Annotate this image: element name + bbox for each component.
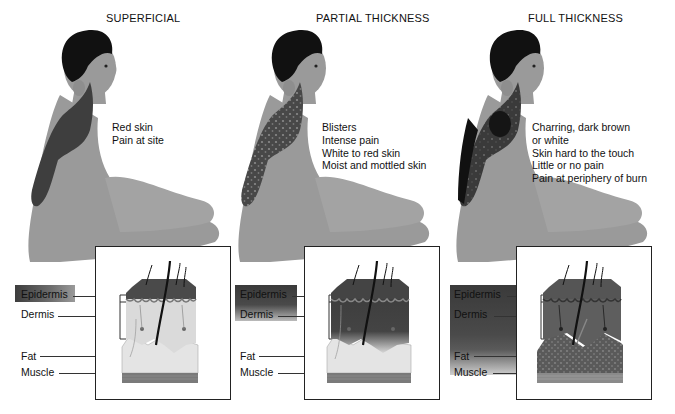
skin-cross-section-inset [516, 246, 652, 400]
description-line: or white [532, 134, 647, 147]
description-line: Red skin [112, 121, 164, 134]
description-line: Pain at site [112, 134, 164, 147]
description-line: Blisters [322, 121, 426, 134]
description-line: Little or no pain [532, 159, 647, 172]
label-dermis: Dermis [21, 308, 54, 320]
label-fat: Fat [454, 350, 469, 362]
panel-description: Blisters Intense pain White to red skin … [322, 121, 426, 172]
label-epidermis: Epidermis [454, 288, 501, 300]
description-line: Moist and mottled skin [322, 159, 426, 172]
label-muscle: Muscle [454, 366, 487, 378]
panel-superficial: SUPERFICIAL Red skin Pain at site Epider… [0, 0, 225, 414]
label-fat: Fat [21, 350, 36, 362]
panel-partial-thickness: PARTIAL THICKNESS Blisters Intense pain … [225, 0, 450, 414]
skin-cross-section-inset [304, 246, 440, 400]
skin-cross-section [96, 247, 230, 399]
panel-description: Red skin Pain at site [112, 121, 164, 147]
skin-cross-section [305, 247, 439, 399]
label-dermis: Dermis [454, 308, 487, 320]
label-muscle: Muscle [21, 366, 54, 378]
skin-cross-section [517, 247, 651, 399]
description-line: Intense pain [322, 134, 426, 147]
label-epidermis: Epidermis [21, 288, 68, 300]
skin-cross-section-inset [95, 246, 231, 400]
label-epidermis: Epidermis [240, 288, 287, 300]
description-line: Charring, dark brown [532, 121, 647, 134]
panel-description: Charring, dark brown or white Skin hard … [532, 121, 647, 185]
label-muscle: Muscle [240, 366, 273, 378]
description-line: Skin hard to the touch [532, 147, 647, 160]
description-line: White to red skin [322, 147, 426, 160]
description-line: Pain at periphery of burn [532, 172, 647, 185]
label-fat: Fat [240, 350, 255, 362]
panel-full-thickness: FULL THICKNESS Charring, dark brown or w… [450, 0, 675, 414]
label-dermis: Dermis [240, 308, 273, 320]
